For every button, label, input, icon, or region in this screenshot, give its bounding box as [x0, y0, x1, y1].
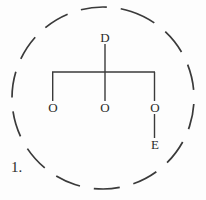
node-label-child-1: O — [43, 101, 63, 114]
item-number-label: 1. — [11, 160, 22, 175]
figure-container: D O O O E 1. — [0, 0, 206, 200]
node-label-leaf: E — [145, 138, 165, 151]
node-label-child-3: O — [145, 101, 165, 114]
node-label-root: D — [95, 31, 115, 44]
node-label-child-2: O — [95, 101, 115, 114]
